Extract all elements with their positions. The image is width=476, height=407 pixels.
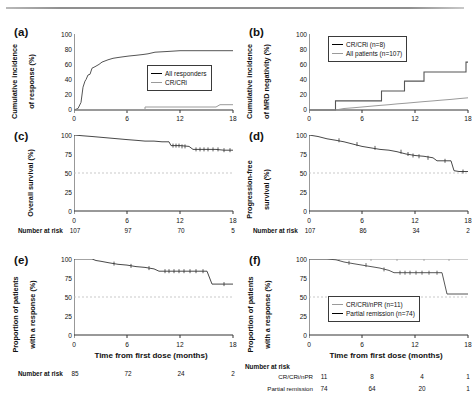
panel-f-risk-row-1-val-3: 1 <box>461 385 475 392</box>
panel-d-ytick-75: 75 <box>287 151 307 158</box>
panel-f-legend-item-1: Partial remission (n=74) <box>332 309 415 318</box>
panel-c-xtick-0: 0 <box>68 217 80 224</box>
panel-f-risk-row-0-val-1: 8 <box>365 373 379 380</box>
panel-e-ytick-25: 25 <box>52 313 72 320</box>
legend-line-icon <box>332 313 343 314</box>
panel-e-xtick-12: 12 <box>174 341 186 348</box>
panel-c: (c) Overall survival (%) 100 75 50 25 0 … <box>0 128 235 246</box>
panel-f-risk-row-1-val-0: 74 <box>317 385 331 392</box>
panel-d-y-axis-label: Progression-free survival (%) <box>237 146 280 232</box>
panel-d-ytick-50: 50 <box>287 170 307 177</box>
panel-f-risk-row-0-val-0: 11 <box>317 373 331 380</box>
panel-e-ytick-50: 50 <box>52 294 72 301</box>
legend-line-icon <box>332 53 343 54</box>
panel-f-risk-row-0-val-2: 4 <box>415 373 429 380</box>
panel-d-xtick-12: 12 <box>409 217 421 224</box>
legend-line-icon <box>151 82 162 83</box>
panel-c-plot-area <box>74 135 234 215</box>
panel-f-risk-row-0-name: CR/CRi/nPR <box>253 373 313 380</box>
panel-e-label: (e) <box>14 254 28 266</box>
panel-a-ytick-40: 40 <box>52 76 72 83</box>
panel-f-ytick-50: 50 <box>287 294 307 301</box>
panel-a-xtick-6: 6 <box>121 115 133 122</box>
panel-b: (b) Cumulative incidence of MRD negativi… <box>235 18 470 128</box>
panel-d-risk-0: 107 <box>301 227 319 234</box>
legend-line-icon <box>151 73 162 74</box>
panel-c-ytick-0: 0 <box>52 208 72 215</box>
panel-b-xtick-0: 0 <box>303 115 315 122</box>
panel-b-ytick-20: 20 <box>287 91 307 98</box>
panel-c-risk-1: 97 <box>119 227 137 234</box>
panel-e-ytick-75: 75 <box>52 275 72 282</box>
panel-e-ytick-0: 0 <box>52 332 72 339</box>
panel-d-ytick-25: 25 <box>287 189 307 196</box>
panel-f-ytick-100: 100 <box>287 256 307 263</box>
panel-f-xtick-12: 12 <box>409 341 421 348</box>
panel-c-risk-2: 70 <box>172 227 190 234</box>
panel-a-ytick-20: 20 <box>52 91 72 98</box>
panel-c-ytick-50: 50 <box>52 170 72 177</box>
panel-e-x-axis-label: Time from first dose (months) <box>56 351 246 360</box>
panel-a-xtick-0: 0 <box>68 115 80 122</box>
panel-a-xtick-12: 12 <box>174 115 186 122</box>
panel-f-risk-row-1-val-1: 64 <box>365 385 379 392</box>
panel-d-risk-2: 34 <box>407 227 425 234</box>
panel-d-plot-area <box>309 135 469 215</box>
panel-c-ytick-100: 100 <box>52 132 72 139</box>
panel-f-x-axis-label: Time from first dose (months) <box>291 351 476 360</box>
panel-b-ytick-40: 40 <box>287 76 307 83</box>
panel-d-label: (d) <box>249 130 264 142</box>
panel-a-y-axis-label: Cumulative incidence of response (%) <box>2 38 45 124</box>
panel-a-label: (a) <box>14 26 28 38</box>
panel-f-risk-label: Number at risk <box>245 363 290 370</box>
panel-d-risk-label: Number at risk <box>253 227 298 234</box>
panel-e-risk-1: 72 <box>119 370 137 377</box>
panel-e-ytick-100: 100 <box>52 256 72 263</box>
panel-e: (e) Proportion of patients with a respon… <box>0 249 235 407</box>
panel-b-ytick-60: 60 <box>287 61 307 68</box>
panel-e-y-axis-label: Proportion of patients with a response (… <box>3 270 46 358</box>
legend-line-icon <box>332 304 343 305</box>
panel-b-xtick-6: 6 <box>356 115 368 122</box>
panel-b-xtick-18: 18 <box>462 115 474 122</box>
panel-f: (f) Proportion of patients with a respon… <box>235 249 470 407</box>
panel-b-xtick-12: 12 <box>409 115 421 122</box>
panel-e-xtick-6: 6 <box>121 341 133 348</box>
panel-c-label: (c) <box>14 130 28 142</box>
panel-b-label: (b) <box>249 26 264 38</box>
panel-b-legend-item-0: CR/CRi (n=8) <box>332 40 402 49</box>
panel-f-ytick-75: 75 <box>287 275 307 282</box>
panel-a-ytick-100: 100 <box>52 31 72 38</box>
panel-d-xtick-18: 18 <box>462 217 474 224</box>
panel-a-legend-item-1: CR/CRi <box>151 78 207 87</box>
panel-d-ytick-100: 100 <box>287 132 307 139</box>
panel-a-ytick-60: 60 <box>52 61 72 68</box>
panel-d-risk-3: 2 <box>459 227 476 234</box>
panel-f-y-axis-label: Proportion of patients with a response (… <box>238 270 281 358</box>
top-divider-rule <box>6 7 464 9</box>
panel-b-ytick-100: 100 <box>287 31 307 38</box>
panel-b-ytick-80: 80 <box>287 46 307 53</box>
panel-f-legend: CR/CRi/nPR (n=11) Partial remission (n=7… <box>328 296 420 322</box>
panel-f-xtick-18: 18 <box>462 341 474 348</box>
panel-a: (a) Cumulative incidence of response (%)… <box>0 18 235 128</box>
panel-c-xtick-6: 6 <box>121 217 133 224</box>
panel-f-ytick-0: 0 <box>287 332 307 339</box>
panel-e-xtick-0: 0 <box>68 341 80 348</box>
panel-e-risk-label: Number at risk <box>18 370 63 377</box>
panel-a-ytick-80: 80 <box>52 46 72 53</box>
panel-c-xtick-12: 12 <box>174 217 186 224</box>
panel-d-xtick-0: 0 <box>303 217 315 224</box>
panel-b-y-axis-label: Cumulative incidence of MRD negativity (… <box>237 38 280 124</box>
panel-f-risk-row-1-val-2: 20 <box>415 385 429 392</box>
panel-f-ytick-25: 25 <box>287 313 307 320</box>
panel-b-ytick-0: 0 <box>287 106 307 113</box>
panel-f-risk-row-0-val-3: 1 <box>461 373 475 380</box>
panel-c-y-axis-label: Overall survival (%) <box>18 142 44 224</box>
panel-e-risk-2: 24 <box>172 370 190 377</box>
panel-d-ytick-0: 0 <box>287 208 307 215</box>
panel-e-risk-0: 85 <box>66 370 84 377</box>
panel-b-legend-item-1: All patients (n=107) <box>332 49 402 58</box>
panel-a-ytick-0: 0 <box>52 106 72 113</box>
panel-f-legend-item-0: CR/CRi/nPR (n=11) <box>332 300 415 309</box>
